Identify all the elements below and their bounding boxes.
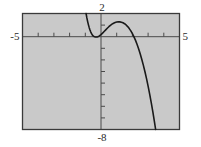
x-axis-max-label: 5: [183, 31, 189, 42]
graph-figure: 2 -8 -5 5: [0, 0, 201, 147]
y-axis-min-label: -8: [97, 132, 106, 143]
y-axis-max-label: 2: [99, 2, 105, 13]
plot-canvas: [0, 0, 201, 147]
x-axis-min-label: -5: [10, 31, 19, 42]
